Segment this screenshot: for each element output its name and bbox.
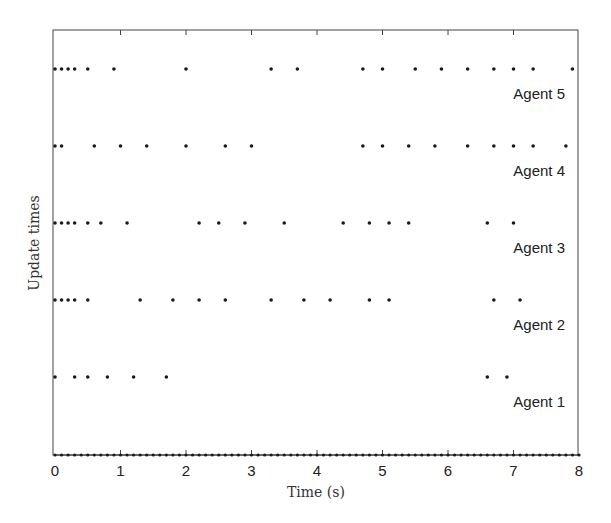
update-marker: [387, 298, 391, 302]
sampling-marker: [283, 453, 286, 456]
sampling-marker: [132, 453, 135, 456]
update-marker: [368, 298, 372, 302]
sampling-marker: [361, 453, 364, 456]
update-marker: [197, 298, 201, 302]
update-marker: [93, 144, 97, 148]
update-marker: [60, 298, 64, 302]
agent-label: Agent 2: [513, 316, 565, 333]
event-plot: 012345678 Agent 5Agent 4Agent 3Agent 2Ag…: [0, 0, 611, 523]
sampling-marker: [440, 453, 443, 456]
sampling-marker: [486, 453, 489, 456]
x-axis-title: Time (s): [287, 484, 345, 500]
update-marker: [60, 144, 64, 148]
update-marker: [184, 144, 188, 148]
update-marker: [466, 67, 470, 71]
sampling-marker: [545, 453, 548, 456]
update-marker: [571, 67, 575, 71]
update-marker: [361, 67, 365, 71]
update-marker: [66, 221, 70, 225]
update-marker: [492, 144, 496, 148]
update-marker: [282, 221, 286, 225]
sampling-marker: [394, 453, 397, 456]
sampling-marker: [289, 453, 292, 456]
sampling-marker: [302, 453, 305, 456]
sampling-marker: [93, 453, 96, 456]
update-marker: [512, 67, 516, 71]
plot-frame: [53, 30, 578, 455]
x-tick-label: 2: [182, 462, 190, 479]
sampling-marker: [230, 453, 233, 456]
sampling-marker: [152, 453, 155, 456]
x-tick-label: 3: [247, 462, 255, 479]
sampling-marker: [67, 453, 70, 456]
update-marker: [132, 375, 136, 379]
sampling-marker: [505, 453, 508, 456]
sampling-marker: [60, 453, 63, 456]
sampling-marker: [322, 453, 325, 456]
sampling-marker: [211, 453, 214, 456]
sampling-marker: [466, 453, 469, 456]
update-marker: [466, 144, 470, 148]
update-marker: [86, 67, 90, 71]
x-tick-label: 4: [313, 462, 321, 479]
update-marker: [512, 144, 516, 148]
sampling-marker: [73, 453, 76, 456]
update-marker: [512, 221, 516, 225]
update-marker: [86, 221, 90, 225]
update-marker: [341, 221, 345, 225]
update-marker: [269, 298, 273, 302]
update-marker: [407, 144, 411, 148]
update-marker: [125, 221, 129, 225]
sampling-marker: [86, 453, 89, 456]
update-marker: [106, 375, 110, 379]
sampling-marker: [145, 453, 148, 456]
update-marker: [73, 375, 77, 379]
sampling-marker: [335, 453, 338, 456]
update-marker: [328, 298, 332, 302]
sampling-marker: [407, 453, 410, 456]
update-marker: [53, 221, 57, 225]
x-tick-labels: 012345678: [51, 462, 583, 479]
update-marker: [243, 221, 247, 225]
sampling-marker: [342, 453, 345, 456]
sampling-marker: [224, 453, 227, 456]
sampling-marker: [427, 453, 430, 456]
sampling-marker: [204, 453, 207, 456]
sampling-marker: [53, 453, 56, 456]
sampling-marker: [158, 453, 161, 456]
top-axis-ticks: [121, 30, 514, 35]
series-markers: [53, 67, 574, 379]
x-tick-label: 7: [509, 462, 517, 479]
sampling-marker: [387, 453, 390, 456]
update-marker: [73, 67, 77, 71]
update-marker: [440, 67, 444, 71]
update-marker: [184, 67, 188, 71]
update-marker: [138, 298, 142, 302]
sampling-marker: [571, 453, 574, 456]
sampling-marker: [99, 453, 102, 456]
sampling-marker: [139, 453, 142, 456]
sampling-marker: [355, 453, 358, 456]
update-marker: [492, 298, 496, 302]
update-marker: [112, 67, 116, 71]
sampling-marker: [309, 453, 312, 456]
sampling-marker: [381, 453, 384, 456]
sampling-marker: [479, 453, 482, 456]
sampling-marker: [446, 453, 449, 456]
update-marker: [60, 67, 64, 71]
update-marker: [492, 67, 496, 71]
x-tick-label: 1: [116, 462, 124, 479]
update-marker: [165, 375, 169, 379]
sampling-marker: [420, 453, 423, 456]
update-marker: [433, 144, 437, 148]
sampling-marker: [171, 453, 174, 456]
update-marker: [119, 144, 123, 148]
sampling-marker: [558, 453, 561, 456]
sampling-marker: [165, 453, 168, 456]
x-tick-label: 5: [378, 462, 386, 479]
update-marker: [224, 298, 228, 302]
sampling-marker: [564, 453, 567, 456]
agent-label: Agent 4: [513, 162, 565, 179]
update-marker: [531, 144, 535, 148]
update-marker: [145, 144, 149, 148]
